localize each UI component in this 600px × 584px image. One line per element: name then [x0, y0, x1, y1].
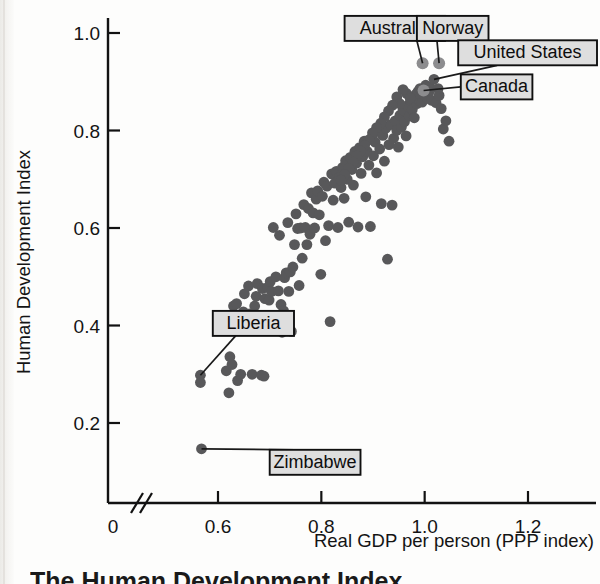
data-point: [333, 222, 344, 233]
data-point: [323, 220, 334, 231]
data-point: [314, 209, 325, 220]
data-point: [289, 239, 300, 250]
data-point: [353, 222, 364, 233]
figure-caption: The Human Development Index: [30, 566, 402, 584]
x-tick-label-zero: 0: [108, 516, 119, 537]
data-point: [315, 269, 326, 280]
data-point: [405, 93, 416, 104]
data-point: [339, 193, 350, 204]
callout-label: Canada: [465, 76, 529, 96]
data-point: [317, 191, 328, 202]
data-point: [343, 217, 354, 228]
data-point: [302, 239, 313, 250]
data-point: [365, 221, 376, 232]
data-point: [297, 253, 308, 264]
data-point: [274, 230, 285, 241]
data-point: [364, 160, 375, 171]
data-point: [436, 103, 447, 114]
y-axis-title: Human Development Index: [13, 149, 34, 374]
data-point: [409, 112, 420, 123]
callout-label: United States: [474, 42, 582, 62]
y-tick-label: 0.4: [74, 316, 101, 337]
data-point: [283, 286, 294, 297]
data-point: [336, 175, 347, 186]
data-point: [235, 369, 246, 380]
scatter-plot: 0.20.40.60.81.0 00.60.81.01.2 AustraliaN…: [0, 0, 600, 584]
data-points-layer: [195, 58, 454, 454]
data-point: [294, 280, 305, 291]
data-point: [247, 369, 258, 380]
y-axis-ticks: 0.20.40.60.81.0: [74, 23, 120, 434]
data-point: [195, 377, 206, 388]
data-point: [325, 316, 336, 327]
data-point: [387, 200, 398, 211]
data-point: [288, 262, 299, 273]
y-tick-label: 1.0: [74, 23, 100, 44]
callout-label: Liberia: [226, 313, 281, 333]
data-point: [291, 209, 302, 220]
data-point: [273, 286, 284, 297]
data-point: [249, 301, 260, 312]
y-tick-label: 0.6: [74, 218, 100, 239]
figure-page: 0.20.40.60.81.0 00.60.81.01.2 AustraliaN…: [0, 0, 600, 584]
data-point: [282, 217, 293, 228]
data-point: [441, 115, 452, 126]
callout-label: Zimbabwe: [274, 452, 357, 472]
data-point: [227, 359, 238, 370]
data-point: [371, 168, 382, 179]
annotation-callouts-layer: AustraliaNorwayUnited StatesCanadaLiberi…: [200, 16, 597, 475]
callout-label: Norway: [422, 18, 483, 38]
x-tick-label: 0.6: [205, 516, 231, 537]
data-point: [374, 144, 385, 155]
data-point: [259, 371, 270, 382]
data-point: [360, 191, 371, 202]
data-point: [393, 142, 404, 153]
data-point: [224, 387, 235, 398]
data-point: [379, 156, 390, 167]
data-point: [376, 198, 387, 209]
data-point: [328, 195, 339, 206]
data-point: [444, 136, 455, 147]
data-point: [401, 131, 412, 142]
data-point: [309, 223, 320, 234]
data-point: [348, 180, 359, 191]
y-tick-label: 0.2: [74, 413, 100, 434]
data-point: [356, 168, 367, 179]
data-point: [320, 235, 331, 246]
x-axis-title: Real GDP per person (PPP index): [314, 530, 594, 551]
data-point: [382, 254, 393, 265]
y-tick-label: 0.8: [74, 121, 100, 142]
